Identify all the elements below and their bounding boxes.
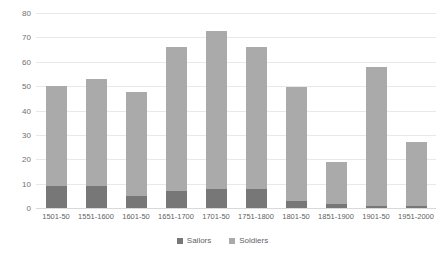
legend-swatch-icon <box>177 238 183 244</box>
bar-segment-sailors[interactable] <box>406 206 427 208</box>
legend-label: Sailors <box>187 236 211 245</box>
x-axis-tick-label: 1501-50 <box>36 212 76 226</box>
x-axis-tick-label: 1851-1900 <box>316 212 356 226</box>
bar-stack[interactable] <box>286 87 307 208</box>
x-axis-tick-label: 1651-1700 <box>156 212 196 226</box>
x-axis-tick-labels: 1501-501551-16001601-501651-17001701-501… <box>36 212 436 226</box>
bar-slot <box>356 13 396 208</box>
bar-stack[interactable] <box>126 92 147 208</box>
legend-swatch-icon <box>229 238 235 244</box>
bar-segment-sailors[interactable] <box>166 191 187 208</box>
bar-segment-soldiers[interactable] <box>126 92 147 196</box>
chart-legend: SailorsSoldiers <box>0 236 445 245</box>
bar-segment-soldiers[interactable] <box>286 87 307 200</box>
x-axis-tick-label: 1951-2000 <box>396 212 436 226</box>
bar-segment-sailors[interactable] <box>286 201 307 208</box>
y-axis-tick-label: 50 <box>5 82 31 91</box>
y-axis-tick-label: 0 <box>5 204 31 213</box>
bars-layer <box>36 13 436 208</box>
bar-segment-soldiers[interactable] <box>46 86 67 186</box>
bar-slot <box>116 13 156 208</box>
bar-segment-soldiers[interactable] <box>326 162 347 205</box>
bar-segment-soldiers[interactable] <box>206 31 227 188</box>
bar-segment-sailors[interactable] <box>126 196 147 208</box>
bar-stack[interactable] <box>246 47 267 208</box>
y-axis-tick-label: 30 <box>5 130 31 139</box>
bar-segment-soldiers[interactable] <box>166 47 187 191</box>
bar-segment-sailors[interactable] <box>326 204 347 208</box>
legend-entry[interactable]: Soldiers <box>229 236 268 245</box>
x-axis-tick-label: 1901-50 <box>356 212 396 226</box>
legend-label: Soldiers <box>239 236 268 245</box>
bar-segment-sailors[interactable] <box>366 206 387 208</box>
y-axis-tick-label: 80 <box>5 9 31 18</box>
bar-slot <box>396 13 436 208</box>
bar-slot <box>76 13 116 208</box>
x-axis-tick-label: 1601-50 <box>116 212 156 226</box>
bar-segment-soldiers[interactable] <box>406 142 427 205</box>
bar-stack[interactable] <box>366 67 387 208</box>
x-axis-tick-label: 1551-1600 <box>76 212 116 226</box>
bar-slot <box>196 13 236 208</box>
stacked-bar-chart: 01020304050607080 1501-501551-16001601-5… <box>0 0 445 256</box>
x-axis-tick-label: 1751-1800 <box>236 212 276 226</box>
bar-slot <box>316 13 356 208</box>
y-axis-tick-label: 20 <box>5 155 31 164</box>
bar-segment-soldiers[interactable] <box>246 47 267 188</box>
bar-segment-sailors[interactable] <box>46 186 67 208</box>
bar-stack[interactable] <box>206 31 227 208</box>
bar-segment-sailors[interactable] <box>206 189 227 209</box>
y-axis-tick-label: 60 <box>5 57 31 66</box>
bar-stack[interactable] <box>406 142 427 208</box>
bar-stack[interactable] <box>46 86 67 208</box>
bar-stack[interactable] <box>166 47 187 208</box>
gridline <box>36 208 436 209</box>
bar-slot <box>156 13 196 208</box>
y-axis-tick-label: 10 <box>5 179 31 188</box>
bar-segment-soldiers[interactable] <box>366 67 387 206</box>
bar-stack[interactable] <box>86 79 107 208</box>
bar-slot <box>276 13 316 208</box>
x-axis-tick-label: 1801-50 <box>276 212 316 226</box>
bar-segment-sailors[interactable] <box>86 186 107 208</box>
y-axis-tick-label: 70 <box>5 33 31 42</box>
y-axis-tick-label: 40 <box>5 106 31 115</box>
bar-segment-soldiers[interactable] <box>86 79 107 186</box>
plot-area <box>36 13 436 208</box>
bar-slot <box>236 13 276 208</box>
bar-segment-sailors[interactable] <box>246 189 267 209</box>
bar-stack[interactable] <box>326 162 347 208</box>
bar-slot <box>36 13 76 208</box>
x-axis-tick-label: 1701-50 <box>196 212 236 226</box>
legend-entry[interactable]: Sailors <box>177 236 211 245</box>
